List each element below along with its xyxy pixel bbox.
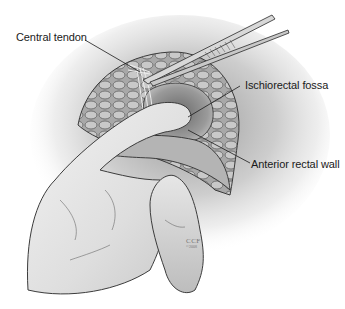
anatomical-illustration <box>0 0 345 309</box>
label-anterior-rectal-wall: Anterior rectal wall <box>251 158 339 170</box>
label-ischiorectal-fossa: Ischiorectal fossa <box>245 79 328 91</box>
artist-signature: CCF ©2008 <box>186 238 201 250</box>
label-central-tendon: Central tendon <box>16 31 87 43</box>
illustration-canvas <box>0 0 345 309</box>
